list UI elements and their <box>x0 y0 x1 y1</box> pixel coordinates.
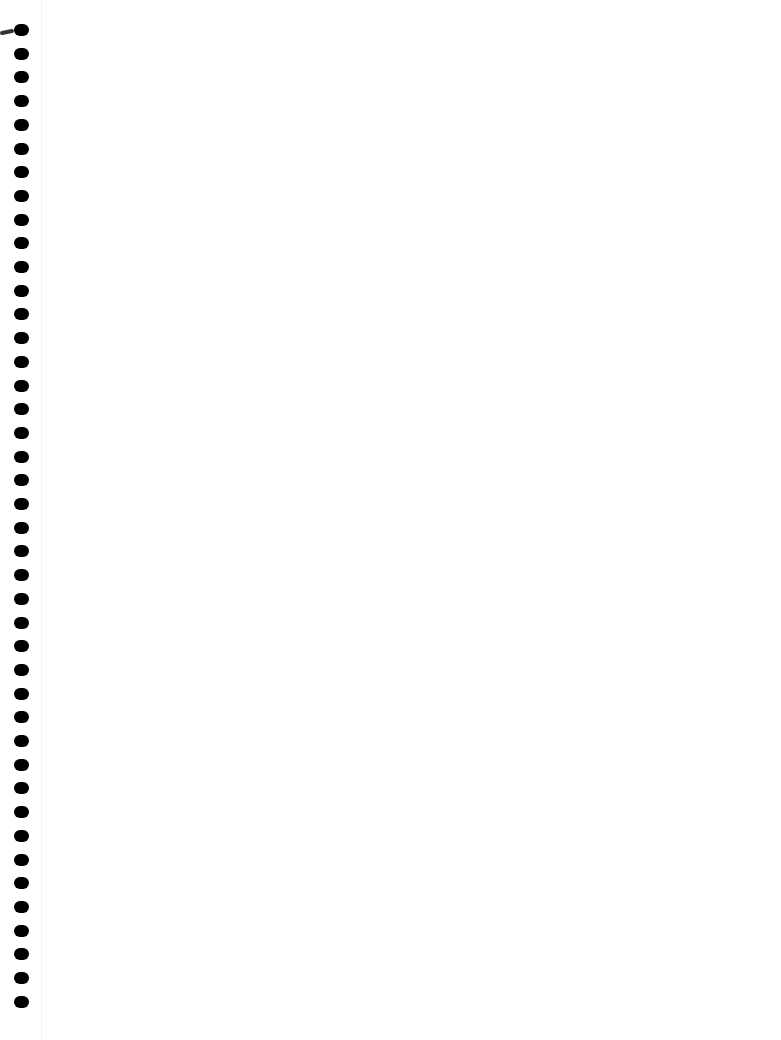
binding-hole <box>14 711 29 723</box>
binding-hole <box>14 782 29 794</box>
binding-hole <box>14 261 29 273</box>
binding-hole <box>14 143 29 155</box>
binding-hole <box>14 214 29 226</box>
binding-hole <box>14 356 29 368</box>
binding-hole <box>14 332 29 344</box>
binding-hole <box>14 474 29 486</box>
binding-hole <box>14 427 29 439</box>
binding-hole <box>14 972 29 984</box>
binding-hole <box>14 498 29 510</box>
binding-hole <box>14 877 29 889</box>
binding-hole <box>14 948 29 960</box>
binding-hole <box>14 664 29 676</box>
binding-hole <box>14 593 29 605</box>
binding-hole <box>14 617 29 629</box>
binding-hole <box>14 925 29 937</box>
binding-hole <box>14 119 29 131</box>
binding-hole <box>14 403 29 415</box>
binding-hole <box>14 71 29 83</box>
binding-hole <box>14 830 29 842</box>
binding-hole <box>14 380 29 392</box>
binding-hole <box>14 735 29 747</box>
binding-hole <box>14 806 29 818</box>
binding-hole <box>14 854 29 866</box>
binding-hole <box>14 522 29 534</box>
binding-hole <box>14 996 29 1008</box>
margin-line <box>41 0 42 1040</box>
binding-hole <box>14 308 29 320</box>
binding-hole <box>14 95 29 107</box>
binding-hole <box>14 190 29 202</box>
notebook-page <box>0 0 781 1040</box>
binding-hole <box>14 688 29 700</box>
binding-hole <box>14 166 29 178</box>
binding-hole <box>14 545 29 557</box>
binding-hole <box>14 901 29 913</box>
binding-hole <box>14 451 29 463</box>
torn-paper-edge <box>0 29 14 36</box>
binding-hole <box>14 48 29 60</box>
binding-hole <box>14 285 29 297</box>
binding-hole <box>14 569 29 581</box>
binding-hole <box>14 24 29 36</box>
binding-hole <box>14 759 29 771</box>
binding-hole <box>14 640 29 652</box>
binding-hole <box>14 237 29 249</box>
